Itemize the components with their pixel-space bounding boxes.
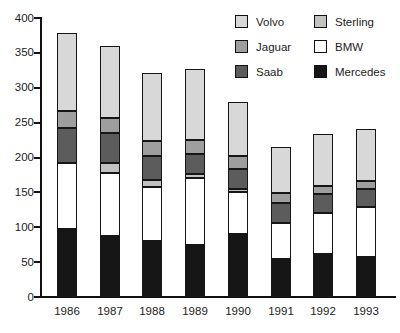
legend-item-jaguar: Jaguar (235, 40, 291, 53)
bar-segment-saab-1990 (228, 169, 248, 189)
y-tick-mark-150 (34, 191, 41, 193)
bar-segment-volvo-1988 (142, 73, 162, 141)
bar-segment-mercedes-1991 (271, 259, 291, 297)
bar-segment-sterling-1988 (142, 180, 162, 187)
legend-label-jaguar: Jaguar (256, 41, 291, 53)
bar-segment-saab-1987 (100, 133, 120, 163)
bar-segment-saab-1986 (57, 128, 77, 163)
bar-segment-saab-1993 (356, 189, 376, 207)
bar-segment-volvo-1993 (356, 129, 376, 181)
legend-label-volvo: Volvo (256, 16, 284, 28)
bar-segment-jaguar-1993 (356, 181, 376, 189)
x-label-1990: 1990 (216, 305, 260, 317)
y-tick-mark-250 (34, 122, 41, 124)
bar-segment-bmw-1993 (356, 207, 376, 257)
x-label-1989: 1989 (173, 305, 217, 317)
x-label-1992: 1992 (301, 305, 345, 317)
bar-1988 (142, 73, 162, 297)
bar-1987 (100, 46, 120, 297)
legend-item-volvo: Volvo (235, 15, 291, 28)
legend-swatch-jaguar (235, 40, 248, 53)
bar-1986 (57, 33, 77, 297)
y-tick-mark-0 (34, 296, 41, 298)
y-tick-mark-50 (34, 261, 41, 263)
bar-segment-jaguar-1991 (271, 193, 291, 203)
legend-swatch-bmw (314, 40, 327, 53)
bar-segment-mercedes-1989 (185, 245, 205, 297)
bar-segment-saab-1989 (185, 154, 205, 174)
bar-segment-jaguar-1987 (100, 118, 120, 133)
legend-swatch-saab (235, 65, 248, 78)
bar-segment-jaguar-1989 (185, 140, 205, 154)
legend-column-1: VolvoJaguarSaab (235, 15, 291, 78)
bar-segment-bmw-1987 (100, 173, 120, 236)
bar-segment-sterling-1987 (100, 163, 120, 173)
bar-segment-bmw-1989 (185, 178, 205, 245)
x-label-1988: 1988 (130, 305, 174, 317)
bar-segment-volvo-1987 (100, 46, 120, 118)
stacked-bar-chart-figure: 050100150200250300350400 198619871988198… (0, 0, 400, 333)
y-tick-mark-300 (34, 87, 41, 89)
y-tick-label-350: 350 (0, 46, 34, 59)
bar-1991 (271, 147, 291, 297)
bar-1990 (228, 102, 248, 297)
bar-segment-jaguar-1988 (142, 141, 162, 156)
y-tick-mark-350 (34, 52, 41, 54)
legend-swatch-sterling (314, 15, 327, 28)
bar-1993 (356, 129, 376, 297)
bar-1992 (313, 134, 333, 297)
bar-segment-volvo-1990 (228, 102, 248, 156)
bar-segment-mercedes-1992 (313, 254, 333, 297)
legend-item-saab: Saab (235, 65, 291, 78)
legend-item-mercedes: Mercedes (314, 65, 386, 78)
bar-segment-volvo-1989 (185, 69, 205, 140)
bar-segment-jaguar-1992 (313, 186, 333, 194)
x-label-1987: 1987 (88, 305, 132, 317)
bar-segment-mercedes-1993 (356, 257, 376, 297)
legend-swatch-mercedes (314, 65, 327, 78)
x-label-1986: 1986 (45, 305, 89, 317)
bar-segment-mercedes-1988 (142, 241, 162, 297)
bar-segment-jaguar-1990 (228, 156, 248, 169)
legend-item-sterling: Sterling (314, 15, 386, 28)
bar-segment-saab-1991 (271, 203, 291, 223)
bar-segment-bmw-1986 (57, 163, 77, 229)
x-axis-baseline (40, 296, 396, 298)
bar-segment-mercedes-1990 (228, 234, 248, 297)
bar-segment-volvo-1991 (271, 147, 291, 193)
bar-segment-bmw-1988 (142, 187, 162, 241)
bar-1989 (185, 69, 205, 297)
legend-label-sterling: Sterling (335, 16, 374, 28)
y-tick-label-200: 200 (0, 151, 34, 164)
y-tick-label-300: 300 (0, 81, 34, 94)
bar-segment-volvo-1992 (313, 134, 333, 186)
y-tick-label-50: 50 (0, 256, 34, 269)
legend-item-bmw: BMW (314, 40, 386, 53)
y-tick-label-400: 400 (0, 12, 34, 25)
legend-column-2: SterlingBMWMercedes (314, 15, 386, 78)
y-tick-label-0: 0 (0, 291, 34, 304)
bar-segment-saab-1992 (313, 194, 333, 213)
legend-label-bmw: BMW (335, 41, 363, 53)
legend-swatch-volvo (235, 15, 248, 28)
x-label-1991: 1991 (259, 305, 303, 317)
legend-label-mercedes: Mercedes (335, 66, 386, 78)
legend-label-saab: Saab (256, 66, 283, 78)
bar-segment-bmw-1990 (228, 192, 248, 234)
y-tick-label-150: 150 (0, 186, 34, 199)
bar-segment-jaguar-1986 (57, 111, 77, 128)
bar-segment-saab-1988 (142, 156, 162, 180)
y-tick-mark-200 (34, 157, 41, 159)
y-tick-label-250: 250 (0, 116, 34, 129)
bar-segment-bmw-1991 (271, 223, 291, 259)
bar-segment-volvo-1986 (57, 33, 77, 111)
bar-segment-bmw-1992 (313, 213, 333, 254)
bar-segment-mercedes-1986 (57, 229, 77, 297)
y-tick-label-100: 100 (0, 221, 34, 234)
x-label-1993: 1993 (344, 305, 388, 317)
y-tick-mark-400 (34, 17, 41, 19)
bar-segment-mercedes-1987 (100, 236, 120, 297)
y-tick-mark-100 (34, 226, 41, 228)
